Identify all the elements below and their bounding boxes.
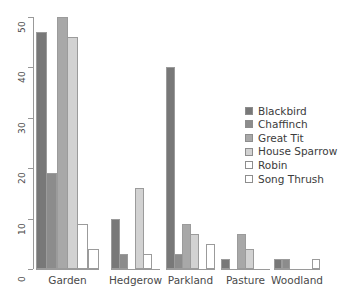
legend-item-song-thrush[interactable]: Song Thrush: [245, 172, 337, 186]
legend-swatch-icon: [245, 134, 253, 142]
x-axis-segment: [36, 269, 99, 270]
bar: [221, 259, 230, 269]
x-axis-segment: [221, 269, 270, 270]
bar: [77, 224, 88, 269]
x-axis-segment: [274, 269, 320, 270]
bar: [67, 37, 78, 269]
bar: [245, 249, 254, 269]
bar: [190, 234, 199, 269]
y-axis-tick-label: 30: [17, 117, 27, 139]
bar: [88, 249, 99, 269]
legend-item-blackbird[interactable]: Blackbird: [245, 104, 337, 118]
y-axis-tick-label: 40: [17, 66, 27, 88]
x-axis-label-woodland: Woodland: [256, 274, 338, 286]
legend-item-house-sparrow[interactable]: House Sparrow: [245, 145, 337, 159]
bar: [282, 259, 290, 269]
x-axis-segment: [166, 269, 215, 270]
bar: [57, 17, 68, 269]
legend-swatch-icon: [245, 161, 253, 169]
y-axis-tick: [28, 269, 33, 270]
y-axis-tick: [28, 219, 33, 220]
legend-item-robin[interactable]: Robin: [245, 158, 337, 172]
legend-label: Chaffinch: [258, 119, 308, 130]
legend-swatch-icon: [245, 175, 253, 183]
chart-legend: BlackbirdChaffinchGreat TitHouse Sparrow…: [245, 104, 337, 186]
legend-label: Song Thrush: [258, 174, 324, 185]
bar: [166, 67, 175, 269]
legend-label: Robin: [258, 160, 288, 171]
legend-swatch-icon: [245, 120, 253, 128]
bar: [143, 254, 152, 269]
y-axis-tick: [28, 67, 33, 68]
y-axis-tick-label: 50: [17, 16, 27, 38]
legend-item-great-tit[interactable]: Great Tit: [245, 131, 337, 145]
legend-label: Blackbird: [258, 106, 307, 117]
x-axis-segment: [111, 269, 160, 270]
legend-label: Great Tit: [258, 133, 304, 144]
bar: [312, 259, 320, 269]
bar: [46, 173, 57, 269]
bar: [119, 254, 128, 269]
y-axis-line: [33, 17, 34, 269]
legend-item-chaffinch[interactable]: Chaffinch: [245, 118, 337, 132]
bar: [36, 32, 47, 269]
y-axis-tick: [28, 118, 33, 119]
y-axis-tick-label: 10: [17, 218, 27, 240]
legend-label: House Sparrow: [258, 146, 337, 157]
y-axis-tick: [28, 168, 33, 169]
legend-swatch-icon: [245, 148, 253, 156]
y-axis-tick: [28, 17, 33, 18]
bar: [206, 244, 215, 269]
legend-swatch-icon: [245, 107, 253, 115]
y-axis-tick-label: 20: [17, 167, 27, 189]
